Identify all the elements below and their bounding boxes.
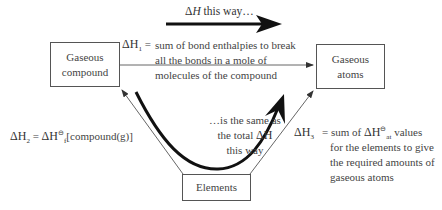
dh1-label: ΔH1 = — [122, 37, 151, 52]
standard-state-symbol: ⊖ — [58, 129, 64, 137]
dh3-description: = sum of ΔH⊖at values for the elements t… — [322, 125, 435, 185]
elements-box: Elements — [182, 174, 251, 201]
curve-caption-line3: this way — [191, 143, 299, 158]
box-label-line1: Gaseous — [62, 50, 108, 65]
dh3-first-line: = sum of ΔH⊖at values — [322, 125, 435, 140]
dh1-line: all the bonds in a mole of — [155, 53, 296, 68]
dhat-symbol: ΔH — [364, 125, 380, 139]
gaseous-atoms-box: Gaseous atoms — [316, 44, 385, 89]
dh2-rhs-text: [compound(g)] — [66, 130, 133, 142]
curve-caption-line2: the total ΔH — [191, 128, 299, 143]
curve-caption: …is the same as the total ΔH this way — [191, 113, 299, 158]
dh1-subscript: 1 — [138, 45, 142, 53]
dh1-equals: = — [145, 38, 151, 50]
enthalpy-cycle-diagram: ΔH this way… Gaseous compound Gaseous at… — [0, 0, 442, 210]
dh1-line: sum of bond enthalpies to break — [155, 38, 296, 53]
dh3-after: values — [391, 126, 422, 138]
dh2-symbol: ΔH — [10, 129, 26, 143]
dh3-line: for the elements to give — [322, 140, 435, 155]
top-caption-text: this way… — [201, 5, 254, 17]
dh2-equation: ΔH2 = ΔH⊖f[compound(g)] — [10, 129, 133, 144]
total-dh-symbol: ΔH — [256, 128, 272, 142]
elements-label: Elements — [196, 180, 237, 195]
top-arrow-caption: ΔH this way… — [185, 5, 254, 17]
dh2-equals: = — [30, 130, 42, 142]
dh3-line: gaseous atoms — [322, 170, 435, 185]
dh3-equals: = sum of — [322, 126, 364, 138]
dh1-symbol: ΔH — [122, 37, 138, 51]
dh3-line: the required amounts of — [322, 155, 435, 170]
gaseous-compound-box: Gaseous compound — [50, 42, 120, 87]
top-bold-arrow — [166, 15, 282, 33]
dh3-symbol: ΔH — [294, 125, 310, 139]
box-label-line2: atoms — [332, 67, 369, 82]
curve-caption-prefix: the total — [218, 129, 257, 141]
curve-caption-line1: …is the same as — [191, 113, 299, 128]
box-label-line2: compound — [62, 65, 108, 80]
box-label-line1: Gaseous — [332, 52, 369, 67]
dh3-label: ΔH3 — [294, 125, 314, 140]
dhf-symbol: ΔH — [42, 129, 58, 143]
dh1-description: sum of bond enthalpies to break all the … — [155, 38, 296, 83]
dh3-subscript: 3 — [310, 133, 314, 141]
h-symbol: H — [192, 5, 200, 17]
dh1-line: molecules of the compound — [155, 68, 296, 83]
standard-state-symbol: ⊖ — [380, 125, 386, 133]
